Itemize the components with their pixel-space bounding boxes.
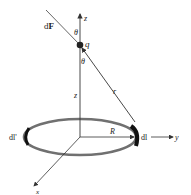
ring-charge-diagram: z dF θ q θ z r R dl dl' y x [0, 0, 191, 195]
axis-label-z: z [83, 14, 88, 23]
axis-label-y: y [174, 133, 179, 142]
height-label-z: z [73, 91, 78, 100]
theta-label-top: θ [74, 28, 78, 37]
theta-label-bottom: θ [81, 57, 85, 66]
element-label-dl-prime: dl' [9, 133, 17, 142]
distance-label-r: r [113, 87, 117, 96]
distance-vector-r [82, 48, 135, 122]
charge-label-q: q [85, 39, 90, 49]
force-label: dF [44, 21, 55, 31]
axis-label-x: x [35, 188, 40, 195]
charge-q [77, 42, 84, 49]
current-element-dl-prime [26, 128, 29, 145]
x-axis [34, 137, 80, 186]
radius-label-R: R [109, 127, 115, 136]
element-label-dl: dl [141, 133, 148, 142]
